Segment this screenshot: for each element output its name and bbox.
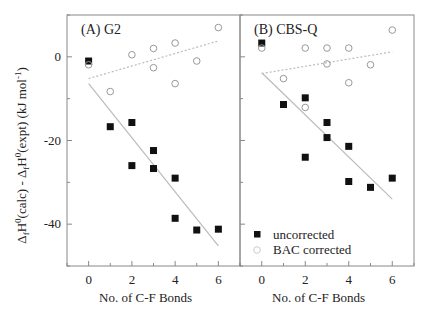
uncorrected-point — [215, 226, 222, 233]
uncorrected-point — [302, 94, 309, 101]
x-tick-label: 0 — [85, 272, 92, 287]
uncorrected-point — [280, 101, 287, 108]
y-axis-label: ΔfH0(calc) - ΔfH0(expt) (kJ mol-1) — [13, 25, 32, 285]
x-tick-label: 0 — [259, 272, 266, 287]
bac-corrected-point — [367, 61, 374, 68]
uncorrected-point — [172, 215, 179, 222]
uncorrected-point — [345, 178, 352, 185]
bac-corrected-point — [172, 80, 179, 87]
chart-figure: 02460-20-40(A) G20246(B) CBS-Quncorrecte… — [0, 0, 429, 314]
uncorrected-point — [302, 154, 309, 161]
x-tick-label: 2 — [129, 272, 136, 287]
bac-corrected-point — [324, 45, 331, 52]
x-axis-label-a: No. of C-F Bonds — [99, 290, 192, 306]
panel-title: (B) CBS-Q — [254, 22, 317, 38]
uncorrected-point — [324, 134, 331, 141]
x-tick-label: 6 — [215, 272, 222, 287]
bac-corrected-point — [215, 24, 222, 31]
bac-corrected-point — [150, 45, 157, 52]
y-tick-label: -40 — [44, 216, 61, 231]
y-tick-label: 0 — [55, 49, 62, 64]
legend-circle-icon — [254, 247, 261, 254]
x-tick-label: 6 — [389, 272, 396, 287]
bac-corrected-point — [280, 75, 287, 82]
bac-corrected-point — [302, 45, 309, 52]
legend-square-icon — [254, 231, 261, 238]
bac-corrected-point — [107, 88, 114, 95]
bac-corrected-point — [345, 79, 352, 86]
uncorrected-fit-line — [89, 84, 219, 246]
x-axis-label-b: No. of C-F Bonds — [272, 290, 365, 306]
bac-corrected-point — [172, 40, 179, 47]
bac-corrected-point — [389, 27, 396, 34]
bac-corrected-point — [324, 61, 331, 68]
uncorrected-point — [172, 175, 179, 182]
uncorrected-point — [345, 143, 352, 150]
uncorrected-point — [150, 165, 157, 172]
legend-label-uncorrected: uncorrected — [273, 227, 335, 242]
x-tick-label: 2 — [302, 272, 309, 287]
uncorrected-point — [367, 184, 374, 191]
y-tick-label: -20 — [44, 133, 61, 148]
uncorrected-point — [150, 147, 157, 154]
uncorrected-point — [324, 119, 331, 126]
x-tick-label: 4 — [346, 272, 353, 287]
legend-label-bac: BAC corrected — [273, 242, 352, 257]
bac-corrected-point — [129, 51, 136, 58]
uncorrected-point — [128, 119, 135, 126]
x-tick-label: 4 — [172, 272, 179, 287]
bac-corrected-point — [345, 45, 352, 52]
bac-corrected-point — [193, 58, 200, 65]
uncorrected-point — [128, 162, 135, 169]
uncorrected-point — [107, 123, 114, 130]
bac-fit-line — [89, 41, 219, 79]
bac-corrected-point — [302, 104, 309, 111]
plot-frame — [67, 15, 240, 266]
panel-title: (A) G2 — [81, 22, 121, 38]
uncorrected-point — [193, 227, 200, 234]
bac-corrected-point — [150, 64, 157, 71]
uncorrected-point — [389, 175, 396, 182]
